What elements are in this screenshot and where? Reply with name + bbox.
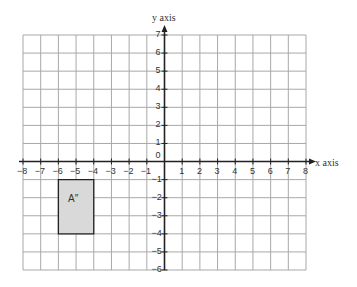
x-tick-label: 6 — [268, 167, 273, 176]
y-tick-label: −4 — [152, 229, 162, 238]
y-tick-label: −2 — [152, 193, 162, 202]
y-tick-label: 6 — [156, 48, 161, 57]
shape-rectangle — [58, 180, 93, 234]
y-tick-label: 7 — [156, 30, 161, 39]
x-tick-label: 7 — [285, 167, 290, 176]
coordinate-grid — [0, 0, 357, 287]
y-axis-title-text: y axis — [152, 12, 176, 23]
x-tick-label: 2 — [197, 167, 202, 176]
y-tick-label: 2 — [156, 120, 161, 129]
y-tick-label: −6 — [152, 265, 162, 274]
x-tick-label: −6 — [52, 167, 62, 176]
y-tick-label: −3 — [152, 211, 162, 220]
x-tick-label: 4 — [232, 167, 237, 176]
y-tick-label: −1 — [152, 175, 162, 184]
x-tick-label: −2 — [123, 167, 133, 176]
x-tick-label: 8 — [303, 167, 308, 176]
origin-label: 0 — [156, 151, 161, 160]
x-tick-label: −8 — [17, 167, 27, 176]
x-tick-label: −1 — [141, 167, 151, 176]
x-tick-label: 5 — [250, 167, 255, 176]
y-tick-label: 1 — [156, 138, 161, 147]
x-tick-label: −3 — [105, 167, 115, 176]
x-tick-label: −5 — [70, 167, 80, 176]
y-tick-label: 4 — [156, 84, 161, 93]
x-axis-title-text: x axis — [315, 157, 339, 168]
y-axis-title: y axis — [152, 12, 176, 23]
x-tick-label: −7 — [35, 167, 45, 176]
x-tick-label: −4 — [88, 167, 98, 176]
x-tick-label: 3 — [215, 167, 220, 176]
y-tick-label: 5 — [156, 66, 161, 75]
y-tick-label: −5 — [152, 247, 162, 256]
x-tick-label: 1 — [179, 167, 184, 176]
shape-label: A″ — [68, 193, 78, 204]
x-axis-title: x axis — [315, 157, 339, 168]
y-tick-label: 3 — [156, 102, 161, 111]
y-axis-arrow-icon — [162, 25, 168, 32]
